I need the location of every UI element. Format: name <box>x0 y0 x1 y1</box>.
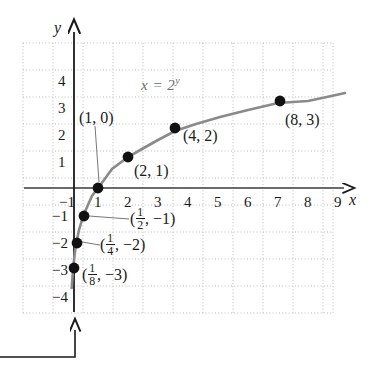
label-remainder: , −2) <box>115 236 145 253</box>
point-label-eighth-neg3: (18, −3) <box>82 262 127 287</box>
equation-exponent: y <box>175 75 180 86</box>
point-1-0 <box>93 183 104 194</box>
point-4-2 <box>170 123 181 134</box>
leader-line-1-0 <box>95 126 99 182</box>
fraction-denominator: 8 <box>88 274 97 287</box>
fraction-one-eighth: 18 <box>88 262 97 287</box>
fraction-numerator: 1 <box>136 206 145 218</box>
label-remainder: , −3) <box>97 266 127 283</box>
fraction-denominator: 2 <box>136 218 145 231</box>
y-tick-label-1: 1 <box>58 155 66 170</box>
y-tick-label-neg3: −3 <box>52 263 68 278</box>
point-label-2-1: (2, 1) <box>134 163 169 179</box>
equation-base: x = 2 <box>141 77 175 93</box>
paren-open: ( <box>82 266 87 283</box>
fraction-denominator: 4 <box>106 244 115 257</box>
fraction-one-half: 12 <box>136 206 145 231</box>
pointer-arrow <box>0 330 75 357</box>
leader-lines <box>82 126 129 245</box>
x-tick-label-8: 8 <box>304 195 312 210</box>
fraction-one-quarter: 14 <box>106 232 115 257</box>
point-label-quarter-neg2: (14, −2) <box>100 232 145 257</box>
equation-label: x = 2y <box>141 76 180 93</box>
leader-line-half-neg1 <box>89 216 129 219</box>
point-label-1-0: (1, 0) <box>79 110 114 126</box>
paren-open: ( <box>100 236 105 253</box>
x-tick-label-4: 4 <box>184 195 192 210</box>
point-label-4-2: (4, 2) <box>183 128 218 144</box>
x-tick-label-1: 1 <box>94 195 102 210</box>
x-axis-label: x <box>349 192 356 208</box>
y-tick-label-neg4: −4 <box>52 290 68 305</box>
leader-line-quarter-neg2 <box>82 242 100 245</box>
point-2-1 <box>123 152 134 163</box>
point-eighth-neg3 <box>69 263 80 274</box>
y-tick-label-neg1: −1 <box>52 209 68 224</box>
point-quarter-neg2 <box>72 238 83 249</box>
y-tick-label-2: 2 <box>58 128 66 143</box>
paren-open: ( <box>130 210 135 227</box>
point-label-half-neg1: (12, −1) <box>130 206 175 231</box>
x-tick-label-9: 9 <box>334 195 342 210</box>
y-tick-label-neg2: −2 <box>52 236 68 251</box>
y-axis-label: y <box>54 20 61 36</box>
y-tick-label-4: 4 <box>58 74 66 89</box>
label-remainder: , −1) <box>145 210 175 227</box>
graph-figure: y x x = 2y −1 1 2 3 4 5 6 7 8 9 4 3 2 1 … <box>0 0 380 382</box>
point-half-neg1 <box>79 211 90 222</box>
point-8-3 <box>275 96 286 107</box>
point-label-8-3: (8, 3) <box>285 112 320 128</box>
x-tick-label-6: 6 <box>244 195 252 210</box>
fraction-numerator: 1 <box>88 262 97 274</box>
x-tick-label-5: 5 <box>214 195 222 210</box>
fraction-numerator: 1 <box>106 232 115 244</box>
x-tick-label-7: 7 <box>274 195 282 210</box>
y-tick-label-3: 3 <box>58 101 66 116</box>
coordinate-plane <box>0 0 380 382</box>
